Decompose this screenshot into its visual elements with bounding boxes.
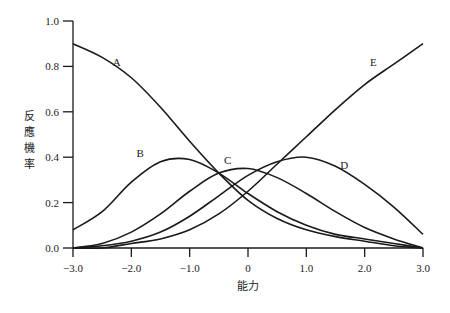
curve-e bbox=[73, 44, 423, 249]
y-tick-label: 0.4 bbox=[45, 151, 59, 163]
series-label-d: D bbox=[340, 159, 348, 171]
series-labels: ABCDE bbox=[113, 56, 377, 170]
x-tick-label: −3.0 bbox=[63, 262, 83, 274]
y-tick-label: 0.8 bbox=[45, 60, 59, 72]
series-label-e: E bbox=[370, 56, 377, 68]
y-tick-label: 0.6 bbox=[45, 106, 59, 118]
x-tick-label: 1.0 bbox=[299, 262, 313, 274]
y-axis-label: 反應機率 bbox=[24, 110, 35, 170]
series-group bbox=[73, 44, 423, 249]
series-label-c: C bbox=[224, 154, 231, 166]
y-tick-label: 0.0 bbox=[45, 242, 59, 254]
x-tick-label: 3.0 bbox=[416, 262, 430, 274]
y-tick-label: 0.2 bbox=[45, 197, 59, 209]
x-tick-label: −2.0 bbox=[121, 262, 141, 274]
y-tick-label: 1.0 bbox=[45, 15, 59, 27]
curve-c bbox=[73, 168, 423, 248]
svg-text:反: 反 bbox=[24, 110, 35, 122]
series-label-a: A bbox=[113, 56, 121, 68]
x-axis: −3.0−2.0−1.001.02.03.0 bbox=[63, 248, 430, 274]
svg-text:機: 機 bbox=[24, 141, 35, 154]
curve-a bbox=[73, 44, 423, 248]
x-tick-label: 2.0 bbox=[358, 262, 372, 274]
x-tick-label: −1.0 bbox=[180, 262, 200, 274]
chart-figure: 0.00.20.40.60.81.0 −3.0−2.0−1.001.02.03.… bbox=[0, 0, 450, 313]
x-axis-label: 能力 bbox=[237, 279, 259, 292]
svg-text:應: 應 bbox=[24, 125, 35, 138]
y-axis: 0.00.20.40.60.81.0 bbox=[45, 15, 73, 254]
series-label-b: B bbox=[136, 147, 143, 159]
x-tick-label: 0 bbox=[245, 262, 251, 274]
svg-text:率: 率 bbox=[24, 157, 35, 170]
